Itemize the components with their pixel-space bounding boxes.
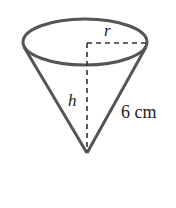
- cone-diagram: r h 6 cm: [0, 0, 176, 208]
- cone-base-ellipse: [23, 19, 147, 65]
- slant-label: 6 cm: [121, 102, 157, 122]
- height-label: h: [68, 91, 77, 110]
- radius-label: r: [104, 21, 111, 40]
